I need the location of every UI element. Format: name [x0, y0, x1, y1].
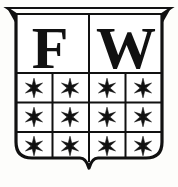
chief-letter-f: F	[32, 15, 69, 81]
heraldic-shield-emblem: F W	[0, 0, 178, 187]
shield-top-edge	[7, 8, 171, 14]
shield-drawing: F W	[0, 0, 178, 187]
chief-letter-w: W	[96, 15, 156, 81]
